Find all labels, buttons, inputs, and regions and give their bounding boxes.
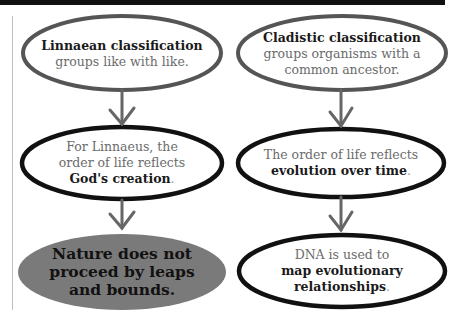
evolution-label: The order of life reflects evolution ove… <box>240 147 442 179</box>
gods-creation-emphasis: God's creation <box>69 171 170 186</box>
dna-label: DNA is used to map evolutionary relation… <box>246 247 438 295</box>
arrow-down-icon <box>330 197 352 230</box>
arrow-down-icon <box>330 90 352 126</box>
arrow-down-icon <box>110 90 134 124</box>
cladistic-title: Cladistic classification <box>263 30 421 45</box>
nature-leaps-label: Nature does not proceed by leaps and bou… <box>24 245 220 299</box>
arrow-down-icon <box>110 200 134 228</box>
linnaean-label: Linnaean classification groups like with… <box>30 38 214 70</box>
gods-creation-label: For Linnaeus, the order of life reflects… <box>30 139 214 187</box>
linnaean-text: groups like with like. <box>55 54 189 69</box>
cladistic-label: Cladistic classification groups organism… <box>246 30 438 78</box>
linnaean-title: Linnaean classification <box>41 38 202 53</box>
evolution-emphasis: evolution over time <box>271 163 407 178</box>
